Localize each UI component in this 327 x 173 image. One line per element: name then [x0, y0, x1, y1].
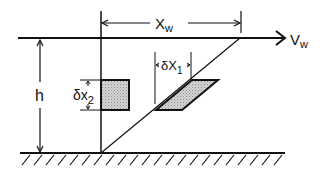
height-label: h [35, 87, 44, 104]
velocity-label: Vw [290, 31, 308, 50]
square-fluid-element [101, 80, 129, 110]
delta-x1-label: δX1 [161, 58, 183, 76]
xw-label: Xw [155, 15, 173, 34]
ground-hatching [22, 155, 282, 165]
wind-shear-diagram: Vw Xw [0, 0, 327, 173]
sheared-fluid-element [156, 80, 218, 110]
delta-x2-label: δx2 [73, 87, 94, 106]
top-surface-line [18, 31, 285, 45]
